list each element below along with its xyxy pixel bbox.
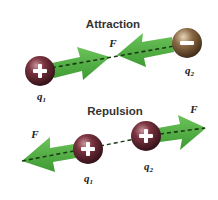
- attraction-section: Attraction F q1 q2: [25, 18, 202, 104]
- attraction-force-arrow-q1: [52, 47, 110, 80]
- repulsion-title: Repulsion: [87, 105, 143, 117]
- attraction-force-label: F: [108, 37, 117, 49]
- charge-q1-positive: [25, 56, 55, 86]
- coulomb-force-diagram: Attraction F q1 q2: [0, 0, 218, 200]
- repulsion-q2-label: q2: [144, 160, 154, 174]
- attraction-force-arrow-q2: [117, 33, 174, 67]
- repulsion-charge-q1-positive: [73, 134, 103, 164]
- attraction-title: Attraction: [86, 18, 140, 30]
- charge-q2-negative: [172, 28, 202, 58]
- repulsion-force-arrow-q2: [158, 115, 206, 150]
- repulsion-charge-q2-positive: [131, 121, 161, 151]
- minus-icon: [180, 41, 194, 45]
- repulsion-force-label-left: F: [30, 128, 39, 140]
- attraction-q1-label: q1: [37, 90, 46, 104]
- attraction-q2-label: q2: [185, 64, 195, 78]
- repulsion-section: Repulsion F F q1: [22, 103, 206, 186]
- repulsion-q1-label: q1: [84, 172, 93, 186]
- repulsion-dashed-line-middle: [100, 139, 135, 146]
- repulsion-force-label-right: F: [189, 103, 198, 115]
